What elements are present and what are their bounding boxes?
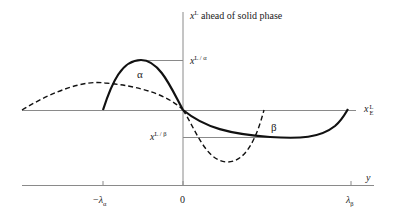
alpha-level-sup: L / α	[194, 54, 206, 61]
alpha-level-label: xL / α	[190, 55, 207, 66]
eutectic-composition-diagram	[0, 0, 397, 215]
beta-subscript: β	[350, 200, 353, 207]
tick-label-minus-lambda-alpha: −λα	[93, 195, 106, 208]
alpha-curve-label: α	[137, 69, 143, 80]
y-axis-label: y	[366, 173, 370, 183]
tick-label-lambda-beta: λβ	[346, 195, 354, 208]
vertical-axis-label: xL ahead of solid phase	[190, 10, 282, 21]
tick-label-zero: 0	[180, 195, 185, 205]
alpha-dashed-curve	[22, 82, 183, 110]
eutectic-var: x	[364, 103, 368, 114]
alpha-subscript: α	[103, 200, 106, 207]
alpha-solid-curve	[103, 60, 183, 110]
vertical-axis-text: ahead of solid phase	[198, 10, 282, 21]
beta-level-label: xL / β	[150, 131, 167, 142]
eutectic-sub: E	[369, 109, 373, 116]
beta-solid-curve	[183, 109, 348, 138]
beta-curve-label: β	[271, 122, 277, 133]
eutectic-label: xLE	[364, 104, 373, 116]
beta-level-sup: L / β	[154, 130, 166, 137]
